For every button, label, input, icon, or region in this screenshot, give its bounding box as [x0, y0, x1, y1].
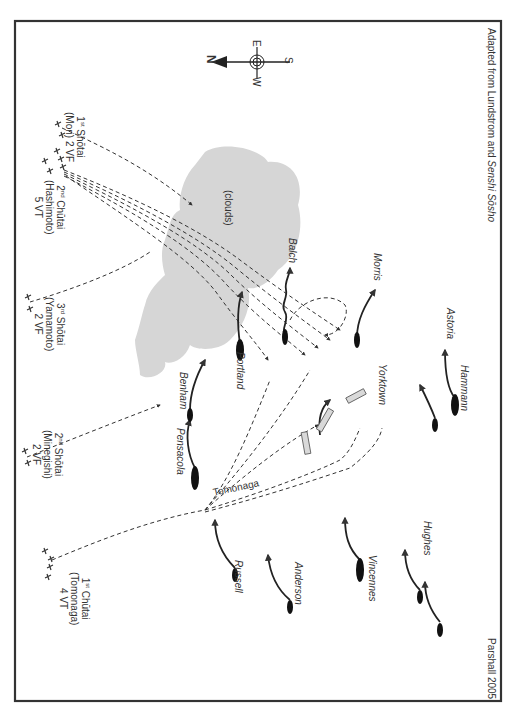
ship-label-benham: Benham: [178, 372, 189, 409]
ship-label-astoria: Astoria: [445, 308, 456, 339]
ship-label-hughes: Hughes: [422, 521, 433, 555]
compass-s: S: [283, 57, 294, 64]
group-label-2nd-shotai-minegishi: 2nd Shōtai (Minegishi) 2 VF: [31, 430, 64, 479]
ship-label-russell: Russell: [233, 560, 244, 593]
group-label-2nd-chutai-hashimoto: 2nd Chūtai (Hashimoto) 5 VT: [33, 180, 66, 234]
yorktown-positions: [301, 389, 366, 455]
compass-e: E: [251, 40, 262, 47]
group-label-1st-shotai-mori: 1st Shōtai (Mori) 2 VF: [64, 112, 86, 162]
ship-label-hammann: Hammann: [459, 365, 470, 411]
ship-label-vincennes: Vincennes: [367, 555, 378, 602]
group-label-3rd-shotai-yamamoto: 3rd Shōtai (Yamamoto) 2 VF: [33, 297, 66, 351]
compass-w: W: [251, 77, 262, 86]
ship-label-anderson: Anderson: [293, 562, 304, 605]
outer-frame: [15, 21, 244, 701]
compass-rose: [211, 47, 290, 78]
ship-label-portland: Portland: [235, 352, 246, 389]
group-label-1st-chutai-tomonaga: 1st Chūtai (Tomonaga) 4 VT: [58, 572, 91, 625]
compass-n: N: [205, 55, 216, 64]
author-credit: Parshall 2005: [486, 638, 497, 699]
ship-label-yorktown: Yorktown: [377, 364, 388, 405]
cloud-area: [135, 147, 300, 378]
ship-label-balch: Balch: [287, 238, 298, 263]
ship-label-pensacola: Pensacola: [175, 428, 186, 475]
ship-label-morris: Morris: [372, 253, 383, 281]
clouds-label: (clouds): [223, 190, 234, 226]
source-credit: Adapted from Lundstrom and Senshi Sōsho: [486, 28, 497, 222]
